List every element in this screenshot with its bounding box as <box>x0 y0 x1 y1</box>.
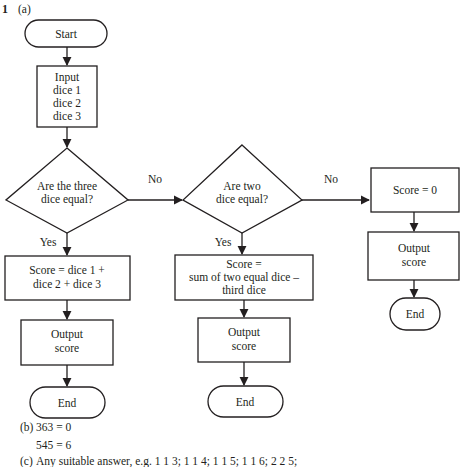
output2-line-1: Output <box>228 326 261 339</box>
output3-line-1: Output <box>398 242 431 255</box>
score-two-line-1: Score = <box>226 258 262 270</box>
decision-two-equal: Are two dice equal? <box>183 145 302 233</box>
input-line-1: Input <box>55 71 80 84</box>
start-terminator: Start <box>25 20 107 47</box>
question-part: (a) <box>18 3 31 16</box>
output-box-3: Output score <box>368 232 459 280</box>
score-two-equal-box: Score = sum of two equal dice – third di… <box>175 255 313 300</box>
start-label: Start <box>55 28 78 40</box>
decision2-no-label: No <box>324 173 338 185</box>
decision-three-equal: Are the three dice equal? <box>6 148 128 233</box>
input-line-3: dice 2 <box>53 97 81 109</box>
score-two-line-2: sum of two equal dice – <box>189 271 299 284</box>
end-terminator-2: End <box>208 386 283 417</box>
score-all-line-1: Score = dice 1 + <box>29 264 105 276</box>
answer-c-text: Any suitable answer, e.g. 1 1 3; 1 1 4; … <box>36 455 297 467</box>
decision1-line-1: Are the three <box>37 180 97 192</box>
answer-c-label: (c) <box>20 455 33 467</box>
output2-line-2: score <box>232 340 256 352</box>
flowchart: 1 (a) Start Input dice 1 dice 2 dice 3 A… <box>0 0 467 467</box>
decision2-line-2: dice equal? <box>216 193 268 206</box>
decision1-yes-label: Yes <box>40 236 57 248</box>
end2-label: End <box>236 396 255 408</box>
score-zero-box: Score = 0 <box>371 168 459 212</box>
output1-line-1: Output <box>51 328 84 341</box>
input-line-2: dice 1 <box>53 84 81 96</box>
answer-b-label: (b) <box>20 421 34 434</box>
score-all-line-2: dice 2 + dice 3 <box>33 278 101 290</box>
input-line-4: dice 3 <box>53 110 81 122</box>
score-zero-label: Score = 0 <box>393 184 437 196</box>
decision2-line-1: Are two <box>223 180 261 192</box>
input-box: Input dice 1 dice 2 dice 3 <box>37 66 97 127</box>
end-terminator-3: End <box>390 298 440 330</box>
answer-b-line1: 363 = 0 <box>36 421 71 433</box>
end-terminator-1: End <box>30 387 105 418</box>
end3-label: End <box>406 308 425 320</box>
output-box-1: Output score <box>21 320 113 365</box>
end1-label: End <box>58 397 77 409</box>
score-sum-all-box: Score = dice 1 + dice 2 + dice 3 <box>5 256 130 300</box>
output-box-2: Output score <box>198 318 290 362</box>
decision2-yes-label: Yes <box>215 236 232 248</box>
output1-line-2: score <box>55 342 79 354</box>
question-number: 1 <box>2 2 8 16</box>
output3-line-2: score <box>402 256 426 268</box>
answer-b-line2: 545 = 6 <box>36 439 71 451</box>
score-two-line-3: third dice <box>222 284 266 296</box>
decision1-line-2: dice equal? <box>41 193 93 206</box>
decision1-no-label: No <box>148 173 162 185</box>
